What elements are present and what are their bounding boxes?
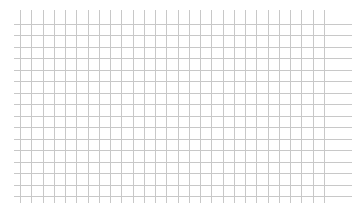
grid-paper: [0, 0, 359, 203]
